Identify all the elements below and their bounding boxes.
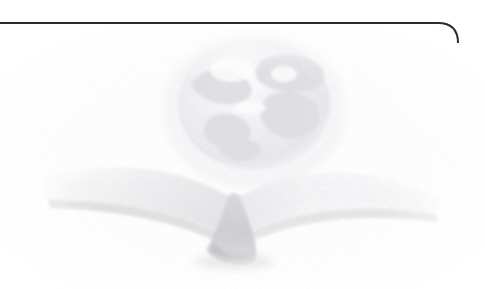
globe-icon xyxy=(162,30,346,190)
document-page: Open book with globe xyxy=(0,0,485,289)
watermark-illustration xyxy=(0,0,485,289)
book-and-globe-watermark xyxy=(0,0,485,289)
book-drop-shadow xyxy=(194,255,274,269)
